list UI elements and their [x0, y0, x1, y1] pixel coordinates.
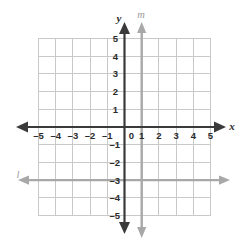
y-tick-label: –2	[109, 157, 120, 168]
line-l-arrow-left	[18, 176, 29, 185]
y-axis-arrow-down	[119, 222, 130, 234]
y-axis-label: y	[115, 12, 122, 24]
y-tick-label: –1	[109, 139, 120, 150]
y-tick-label: –4	[109, 192, 120, 203]
y-tick-label: –3	[109, 175, 120, 186]
line-l-arrow-right	[219, 176, 230, 185]
line-m-arrow-up	[137, 22, 146, 33]
y-tick-label: 1	[113, 104, 119, 115]
x-tick-label: 3	[173, 130, 178, 141]
y-tick-label: 2	[113, 86, 118, 97]
x-tick-label: –4	[50, 130, 61, 141]
y-tick-label: 4	[113, 51, 119, 62]
x-axis-arrow-right	[214, 122, 226, 133]
x-tick-label: 4	[191, 130, 197, 141]
x-tick-label: –5	[33, 130, 44, 141]
x-axis-label: x	[228, 120, 235, 132]
coordinate-plane-figure: x y m l –5 –4 –3 –2 –1 0 1 2 3 4 5 5 4 3…	[0, 0, 246, 247]
x-tick-label: –3	[68, 130, 79, 141]
y-tick-label: 3	[113, 68, 118, 79]
y-tick-label: –5	[109, 210, 120, 221]
coordinate-grid-svg: x y m l –5 –4 –3 –2 –1 0 1 2 3 4 5 5 4 3…	[0, 0, 246, 247]
x-tick-label: –2	[85, 130, 96, 141]
x-tick-label: 5	[208, 130, 214, 141]
x-axis-arrow-left	[16, 122, 28, 133]
line-m-arrow-down	[137, 227, 146, 238]
y-tick-label: 5	[113, 33, 119, 44]
x-tick-label: 2	[156, 130, 161, 141]
origin-label: 0	[129, 130, 134, 141]
line-m-label: m	[137, 9, 145, 20]
x-tick-label: 1	[139, 130, 145, 141]
line-l-label: l	[17, 169, 20, 180]
